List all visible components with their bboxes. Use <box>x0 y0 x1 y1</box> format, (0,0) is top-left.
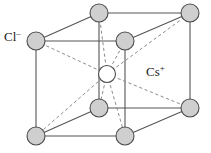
cesium-ion-body-center <box>99 66 116 83</box>
cesium-charge: + <box>160 63 165 73</box>
chloride-ion-back-top-left <box>90 4 108 22</box>
chloride-charge: – <box>16 28 21 38</box>
chloride-symbol: Cl <box>4 29 16 44</box>
cscl-unit-cell-figure: Cl– Cs+ <box>0 0 211 153</box>
cesium-ion-sphere <box>99 66 116 83</box>
ionic-bond-dashed <box>36 41 107 74</box>
chloride-ion-front-top-right <box>116 32 134 50</box>
chloride-ion-back-bottom-right <box>181 99 199 117</box>
chloride-label: Cl– <box>4 29 21 43</box>
chloride-ion-back-top-right <box>181 4 199 22</box>
cube-edge <box>125 13 190 41</box>
cesium-label: Cs+ <box>146 64 165 78</box>
chloride-ion-front-top-left <box>27 32 45 50</box>
ionic-bond-dashed <box>107 74 125 136</box>
cube-edge <box>36 13 99 41</box>
chloride-ion-front-bottom-right <box>116 127 134 145</box>
cube-edge <box>36 108 99 136</box>
chloride-ion-front-bottom-left <box>27 127 45 145</box>
chloride-ion-back-bottom-left <box>90 99 108 117</box>
cesium-symbol: Cs <box>146 64 160 79</box>
crystal-lattice-svg <box>0 0 211 153</box>
cube-edge <box>125 108 190 136</box>
